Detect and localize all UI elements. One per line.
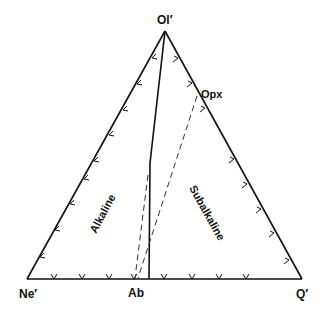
ternary-diagram: Ol′ Ne′ Q′ Opx Ab Alkaline Subalkaline [0,0,324,310]
point-label-opx: Opx [201,88,223,100]
point-label-ab: Ab [128,286,144,300]
right-edge-ticks [173,56,289,264]
field-label-subalkaline: Subalkaline [187,183,227,242]
dashed-join-lines [135,96,197,278]
vertex-label-q: Q′ [296,287,308,301]
triangle-outline [27,31,302,279]
alkaline-subalkaline-boundary [149,31,165,279]
vertex-label-ne: Ne′ [19,287,37,301]
vertex-label-ol: Ol′ [157,13,173,27]
field-label-alkaline: Alkaline [87,192,117,235]
